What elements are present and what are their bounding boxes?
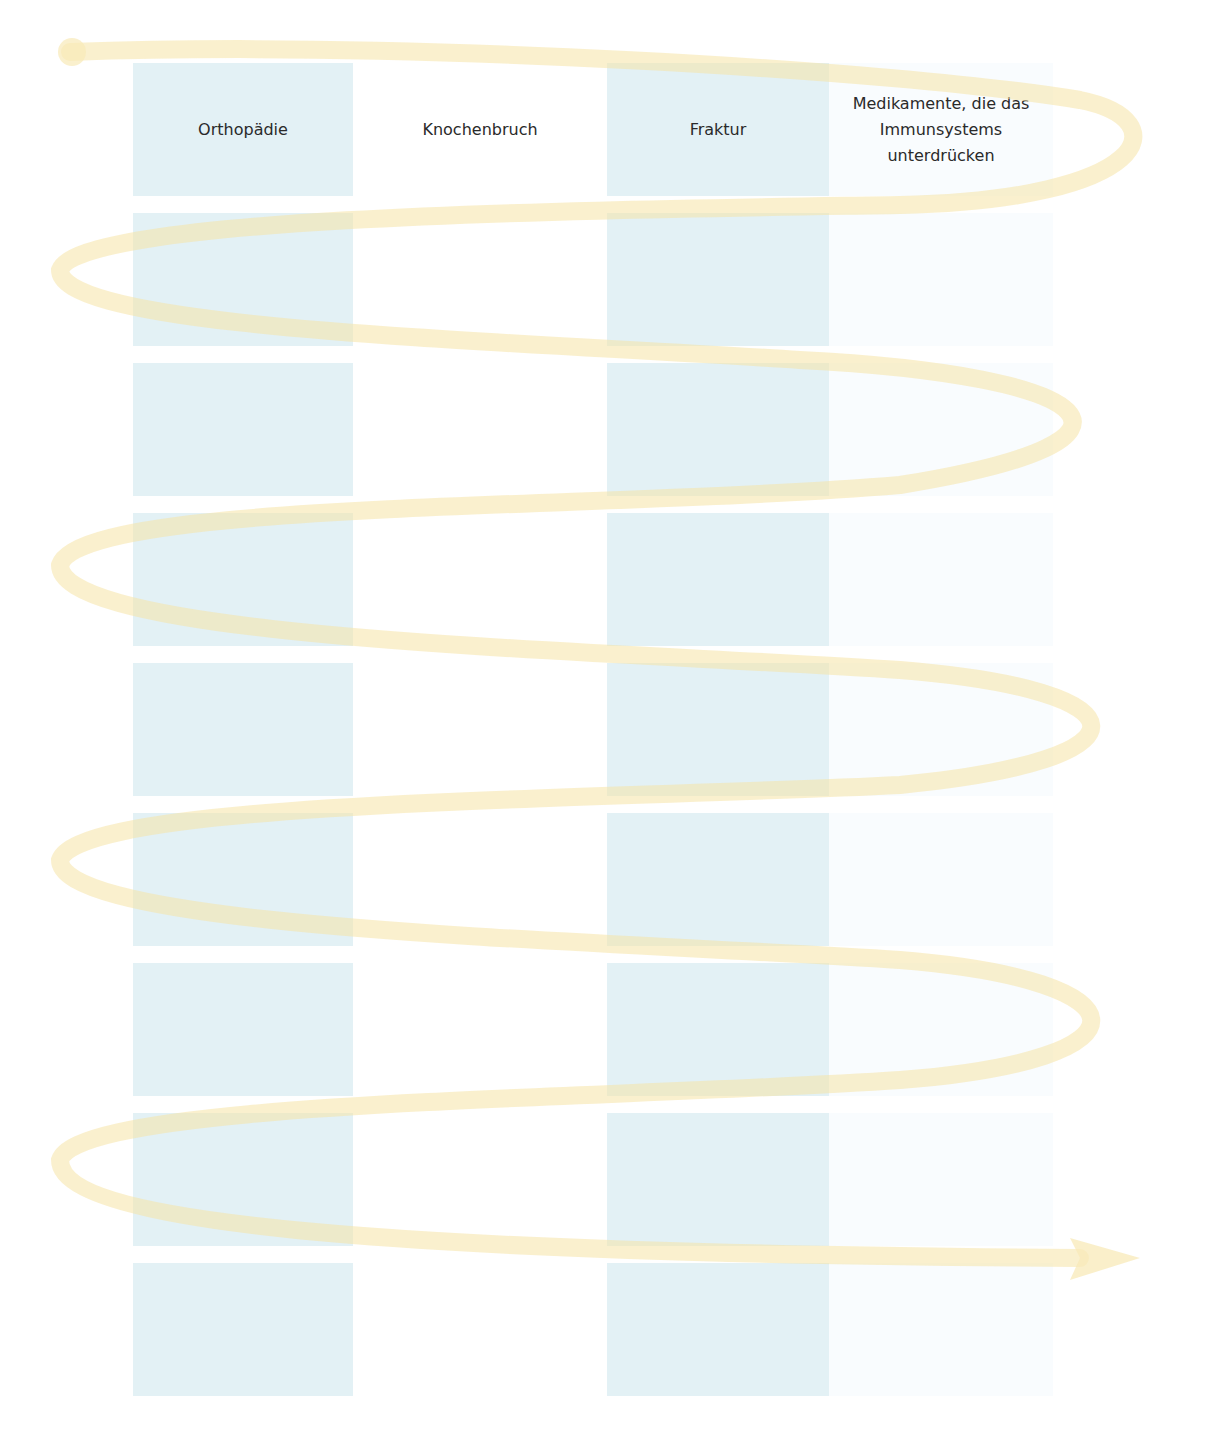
- card-r1-c1: Orthopädie: [133, 63, 353, 196]
- card-r9-c2: [353, 1263, 607, 1396]
- card-r6-c1: [133, 813, 353, 946]
- card-r6-c4: [829, 813, 1053, 946]
- card-r7-c2: [353, 963, 607, 1096]
- card-r1-c3: Fraktur: [607, 63, 829, 196]
- grid-row-6: [133, 813, 1053, 946]
- card-r8-c1: [133, 1113, 353, 1246]
- card-r9-c1: [133, 1263, 353, 1396]
- grid-row-1: Orthopädie Knochenbruch Fraktur Medikame…: [133, 63, 1053, 196]
- card-r5-c1: [133, 663, 353, 796]
- card-r9-c3: [607, 1263, 829, 1396]
- card-r4-c4: [829, 513, 1053, 646]
- card-r4-c3: [607, 513, 829, 646]
- card-r3-c1: [133, 363, 353, 496]
- card-r8-c2: [353, 1113, 607, 1246]
- card-r5-c3: [607, 663, 829, 796]
- card-r6-c2: [353, 813, 607, 946]
- card-r3-c2: [353, 363, 607, 496]
- grid-row-5: [133, 663, 1053, 796]
- card-r2-c2: [353, 213, 607, 346]
- card-r4-c1: [133, 513, 353, 646]
- card-r8-c4: [829, 1113, 1053, 1246]
- card-r4-c2: [353, 513, 607, 646]
- card-r3-c4: [829, 363, 1053, 496]
- card-r7-c3: [607, 963, 829, 1096]
- card-r7-c4: [829, 963, 1053, 1096]
- card-r1-c2: Knochenbruch: [353, 63, 607, 196]
- card-r9-c4: [829, 1263, 1053, 1396]
- card-r6-c3: [607, 813, 829, 946]
- card-r8-c3: [607, 1113, 829, 1246]
- card-r5-c4: [829, 663, 1053, 796]
- card-r7-c1: [133, 963, 353, 1096]
- card-r2-c3: [607, 213, 829, 346]
- grid-row-8: [133, 1113, 1053, 1246]
- arrow-head-icon: [1070, 1238, 1140, 1280]
- grid-row-3: [133, 363, 1053, 496]
- grid-row-4: [133, 513, 1053, 646]
- grid-row-7: [133, 963, 1053, 1096]
- card-r5-c2: [353, 663, 607, 796]
- card-r2-c4: [829, 213, 1053, 346]
- grid-row-9: [133, 1263, 1053, 1396]
- grid-row-2: [133, 213, 1053, 346]
- card-r3-c3: [607, 363, 829, 496]
- card-r1-c4: Medikamente, die das Immunsystems unterd…: [829, 63, 1053, 196]
- start-dot-icon: [58, 38, 86, 66]
- card-r2-c1: [133, 213, 353, 346]
